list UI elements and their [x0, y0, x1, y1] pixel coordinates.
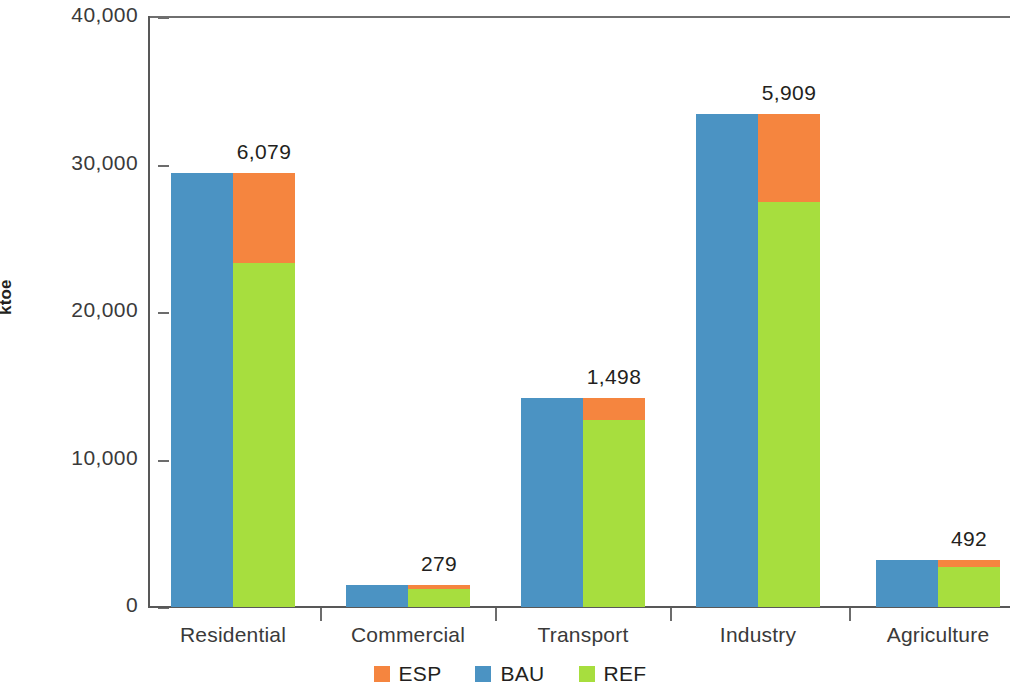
bar-bau-residential	[171, 173, 233, 607]
legend-item-ref[interactable]: REF	[579, 662, 647, 686]
bar-value-label: 279	[373, 552, 505, 576]
chart-legend: ESPBAUREF	[0, 662, 1020, 686]
legend-item-bau[interactable]: BAU	[475, 662, 544, 686]
bar-esp-transport	[583, 398, 645, 420]
x-axis-tick	[320, 608, 322, 621]
bar-ref-industry	[758, 202, 820, 607]
legend-label: ESP	[399, 662, 442, 686]
legend-swatch-icon	[374, 666, 390, 682]
bar-ref-commercial	[408, 589, 470, 607]
bar-esp-industry	[758, 114, 820, 201]
bar-esp-commercial	[408, 585, 470, 589]
bar-bau-industry	[696, 114, 758, 607]
plot-area: 6,079Residential279Commercial1,498Transp…	[0, 0, 1020, 694]
bar-bau-agriculture	[876, 560, 938, 607]
bar-value-label: 1,498	[548, 365, 680, 389]
bar-chart: ktoe 40,00030,00020,00010,0000 6,079Resi…	[0, 0, 1020, 694]
x-axis-tick	[670, 608, 672, 621]
bar-value-label: 492	[903, 527, 1020, 551]
bar-value-label: 6,079	[198, 140, 330, 164]
bar-bau-commercial	[346, 585, 408, 607]
x-axis-tick	[849, 608, 851, 621]
legend-swatch-icon	[579, 666, 595, 682]
legend-item-esp[interactable]: ESP	[374, 662, 442, 686]
bar-ref-residential	[233, 263, 295, 607]
bar-esp-agriculture	[938, 560, 1000, 567]
bar-value-label: 5,909	[723, 81, 855, 105]
x-axis-category-label: Agriculture	[816, 623, 1020, 647]
legend-label: REF	[604, 662, 647, 686]
bar-bau-transport	[521, 398, 583, 607]
bar-ref-transport	[583, 420, 645, 607]
legend-label: BAU	[500, 662, 544, 686]
x-axis-tick	[495, 608, 497, 621]
legend-swatch-icon	[475, 666, 491, 682]
bar-esp-residential	[233, 173, 295, 263]
bar-ref-agriculture	[938, 567, 1000, 607]
